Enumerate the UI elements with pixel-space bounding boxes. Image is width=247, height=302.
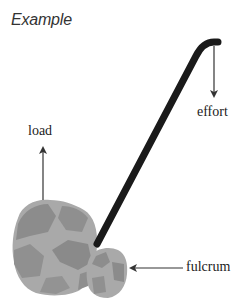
load-label: load (28, 123, 52, 139)
fulcrum-label: fulcrum (186, 259, 230, 275)
load-rock (13, 200, 98, 296)
lever-bar (97, 42, 218, 244)
effort-label: effort (197, 104, 228, 120)
fulcrum-rock (87, 248, 128, 298)
lever-diagram (0, 0, 247, 302)
